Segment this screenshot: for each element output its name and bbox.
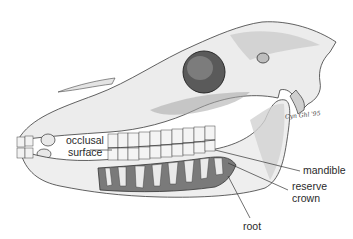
label-mandible: mandible: [303, 164, 346, 176]
label-occlusal-line1: occlusal: [66, 134, 104, 146]
label-reserve-crown: reserve crown: [292, 180, 327, 204]
label-reserve-crown-line1: reserve: [292, 180, 327, 192]
auditory-meatus: [257, 53, 269, 63]
orbit-inner-shadow: [187, 56, 213, 80]
incisors: [17, 136, 33, 158]
label-occlusal-surface: occlusal surface: [66, 134, 104, 158]
incisor-region-1: [41, 134, 55, 146]
label-root: root: [243, 220, 261, 232]
label-reserve-crown-line2: crown: [292, 192, 327, 204]
horse-skull-diagram: occlusal surface mandible reserve crown …: [0, 0, 353, 239]
label-occlusal-line2: surface: [66, 146, 104, 158]
